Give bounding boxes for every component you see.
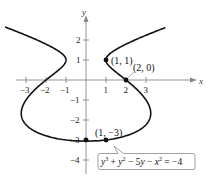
graph: x y −3 −2 −1 1 2 3 2 1 −1 −2 −3 −4 (1, 1… bbox=[0, 0, 209, 177]
x-tick-label: 1 bbox=[104, 85, 109, 95]
equation-label: y3 + y2 − 5y − x2 = −4 bbox=[100, 156, 182, 167]
x-tick-label: −1 bbox=[60, 85, 70, 95]
label-1-m3: (1, −3) bbox=[95, 127, 122, 139]
label-2-0: (2, 0) bbox=[133, 62, 155, 74]
y-tick-label: −4 bbox=[70, 155, 80, 165]
axes: x y −3 −2 −1 1 2 3 2 1 −1 −2 −3 −4 bbox=[16, 7, 203, 174]
x-tick-label: 2 bbox=[124, 85, 129, 95]
label-1-1: (1, 1) bbox=[111, 55, 133, 67]
y-tick-label: −1 bbox=[70, 95, 80, 105]
point-1-m3 bbox=[104, 138, 109, 143]
y-axis-label: y bbox=[81, 7, 86, 17]
x-tick-label: 3 bbox=[144, 85, 149, 95]
point-2-0 bbox=[124, 78, 129, 83]
x-axis-label: x bbox=[198, 76, 203, 86]
y-tick-label: 2 bbox=[76, 35, 81, 45]
x-axis-arrow-icon bbox=[190, 78, 197, 83]
y-tick-label: −2 bbox=[70, 115, 80, 125]
equation-callout: y3 + y2 − 5y − x2 = −4 bbox=[98, 146, 195, 170]
x-tick-label: −3 bbox=[20, 85, 30, 95]
point-1-1 bbox=[104, 58, 109, 63]
y-tick-label: 1 bbox=[76, 55, 81, 65]
point-0-m3 bbox=[84, 138, 89, 143]
x-tick-label: −2 bbox=[40, 85, 50, 95]
